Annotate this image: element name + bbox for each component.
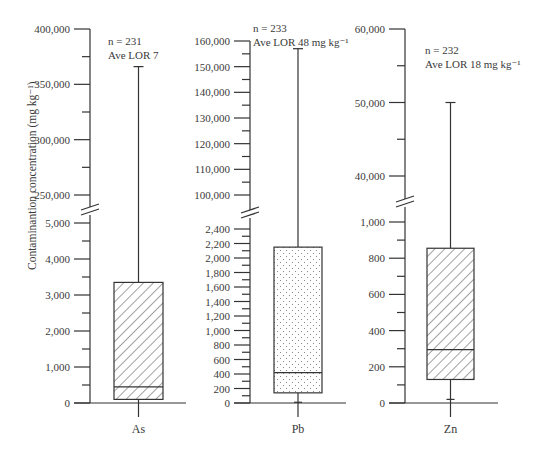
y-axis-label: Contaminantion concentration (mg kg⁻¹) <box>26 81 39 270</box>
tick-label: 60,000 <box>355 23 386 35</box>
annotation: Ave LOR 48 mg kg⁻¹ <box>253 36 349 48</box>
tick-label: 2,000 <box>205 252 230 264</box>
tick-label: 200 <box>369 361 386 373</box>
tick-label: 600 <box>369 288 386 300</box>
tick-label: 100,000 <box>194 189 230 201</box>
panel-pb: 02004006008001,0001,2001,4001,6001,8002,… <box>194 22 348 436</box>
category-label: Pb <box>292 422 305 436</box>
annotation: n = 233 <box>253 22 287 34</box>
tick-label: 0 <box>225 397 231 409</box>
tick-label: 300,000 <box>34 134 70 146</box>
tick-label: 1,600 <box>205 281 230 293</box>
iqr-box <box>114 282 163 399</box>
tick-label: 200 <box>214 383 231 395</box>
tick-label: 600 <box>214 354 231 366</box>
tick-label: 2,200 <box>205 238 230 250</box>
box-plot-chart: Contaminantion concentration (mg kg⁻¹) 0… <box>0 0 543 449</box>
tick-label: 1,000 <box>205 325 230 337</box>
tick-label: 250,000 <box>34 189 70 201</box>
tick-label: 40,000 <box>355 170 386 182</box>
tick-label: 50,000 <box>355 97 386 109</box>
tick-label: 5,000 <box>45 217 70 229</box>
tick-label: 130,000 <box>194 112 230 124</box>
tick-label: 1,200 <box>205 310 230 322</box>
tick-label: 1,000 <box>360 216 385 228</box>
annotation: Ave LOR 18 mg kg⁻¹ <box>425 58 521 70</box>
tick-label: 110,000 <box>195 163 231 175</box>
panel-zn: 02004006008001,00040,00050,00060,000Znn … <box>355 23 521 436</box>
iqr-box <box>427 248 474 379</box>
panel-as: 01,0002,0003,0004,0005,000250,000300,000… <box>34 23 186 436</box>
tick-label: 120,000 <box>194 138 230 150</box>
annotation: n = 232 <box>425 44 459 56</box>
category-label: Zn <box>444 422 457 436</box>
tick-label: 0 <box>65 397 71 409</box>
tick-label: 400,000 <box>34 23 70 35</box>
annotation: Ave LOR 7 <box>108 49 159 61</box>
category-label: As <box>132 422 146 436</box>
tick-label: 3,000 <box>45 289 70 301</box>
tick-label: 400 <box>369 325 386 337</box>
tick-label: 1,000 <box>45 361 70 373</box>
tick-label: 800 <box>369 252 386 264</box>
tick-label: 150,000 <box>194 61 230 73</box>
tick-label: 1,800 <box>205 267 230 279</box>
tick-label: 0 <box>380 397 386 409</box>
tick-label: 160,000 <box>194 35 230 47</box>
tick-label: 1,400 <box>205 296 230 308</box>
panels: 01,0002,0003,0004,0005,000250,000300,000… <box>34 22 520 436</box>
tick-label: 2,000 <box>45 325 70 337</box>
tick-label: 400 <box>214 368 231 380</box>
tick-label: 2,400 <box>205 223 230 235</box>
tick-label: 140,000 <box>194 86 230 98</box>
tick-label: 4,000 <box>45 253 70 265</box>
annotation: n = 231 <box>108 35 142 47</box>
tick-label: 800 <box>214 339 231 351</box>
tick-label: 350,000 <box>34 78 70 90</box>
iqr-box <box>274 247 322 393</box>
